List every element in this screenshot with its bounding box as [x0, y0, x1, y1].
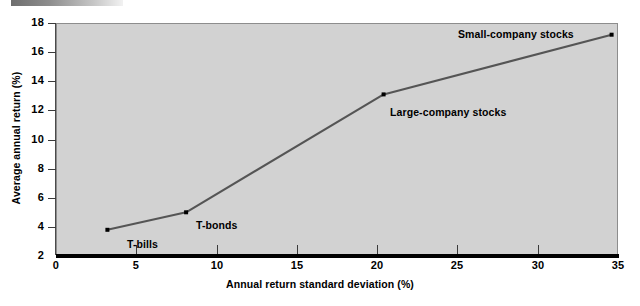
y-tick-label: 12	[20, 103, 44, 115]
y-tick-mark	[48, 227, 56, 228]
y-tick-label: 8	[20, 162, 44, 174]
point-label: T-bonds	[196, 219, 238, 231]
point-label: Small-company stocks	[458, 28, 574, 40]
x-tick-label: 5	[121, 259, 151, 271]
point-label: Large-company stocks	[390, 106, 506, 118]
x-axis-line	[56, 254, 619, 258]
y-tick-mark	[48, 52, 56, 53]
x-tick-label: 35	[603, 259, 633, 271]
y-tick-mark	[48, 23, 56, 24]
y-tick-label: 4	[20, 220, 44, 232]
y-tick-label: 18	[20, 16, 44, 28]
x-axis-title: Annual return standard deviation (%)	[0, 278, 640, 290]
x-tick-label: 0	[41, 259, 71, 271]
y-tick-mark	[48, 110, 56, 111]
x-tick-mark	[217, 245, 218, 254]
y-tick-label: 6	[20, 191, 44, 203]
y-tick-label: 10	[20, 133, 44, 145]
point-label: T-bills	[127, 238, 158, 250]
x-tick-label: 20	[362, 259, 392, 271]
y-axis-line	[55, 23, 56, 255]
plot-area	[56, 23, 618, 254]
y-tick-mark	[48, 81, 56, 82]
y-axis-title: Average annual return (%)	[10, 58, 22, 218]
x-tick-label: 25	[442, 259, 472, 271]
y-tick-mark	[48, 140, 56, 141]
x-tick-mark	[297, 245, 298, 254]
x-tick-mark	[538, 245, 539, 254]
x-tick-label: 10	[202, 259, 232, 271]
y-tick-label: 14	[20, 74, 44, 86]
x-tick-label: 30	[523, 259, 553, 271]
x-tick-mark	[377, 245, 378, 254]
risk-return-chart: 2468101214161805101520253035 T-billsT-bo…	[0, 0, 640, 306]
x-tick-label: 15	[282, 259, 312, 271]
x-tick-mark	[457, 245, 458, 254]
y-tick-mark	[48, 169, 56, 170]
y-tick-mark	[48, 198, 56, 199]
y-tick-label: 16	[20, 45, 44, 57]
